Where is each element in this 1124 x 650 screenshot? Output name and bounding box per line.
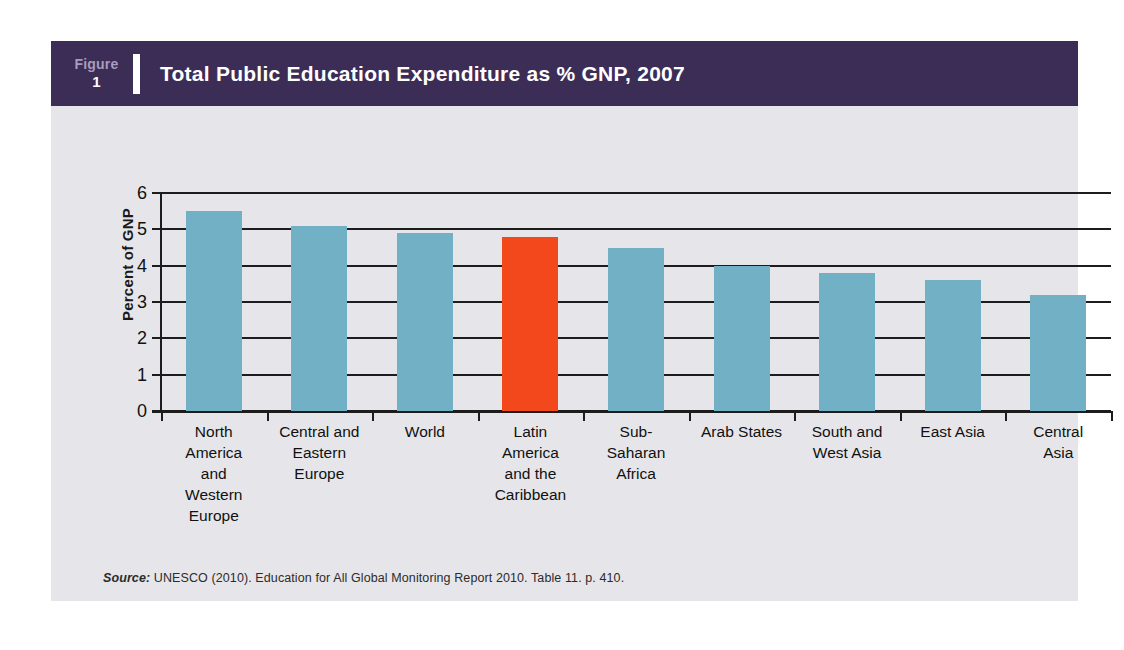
bar xyxy=(397,233,453,411)
x-axis-label-line: and xyxy=(154,463,274,484)
y-tick-mark xyxy=(152,265,161,267)
x-axis-label-line: Latin xyxy=(471,421,591,442)
x-axis-label-line: South and xyxy=(787,421,907,442)
bar xyxy=(502,237,558,411)
bar xyxy=(608,248,664,412)
y-tick-label: 2 xyxy=(137,329,147,347)
x-axis-label: Central andEasternEurope xyxy=(260,421,380,484)
figure-panel: Figure 1 Total Public Education Expendit… xyxy=(51,41,1078,601)
x-axis-label: NorthAmericaandWesternEurope xyxy=(154,421,274,526)
source-note: Source: UNESCO (2010). Education for All… xyxy=(103,571,624,585)
chart-area: Percent of GNP 0123456 NorthAmericaandWe… xyxy=(51,106,1078,601)
x-axis-label: CentralAsia xyxy=(998,421,1118,463)
bar xyxy=(1030,295,1086,411)
title-divider xyxy=(133,54,140,94)
x-axis-label-line: Eastern xyxy=(260,442,380,463)
figure-title: Total Public Education Expenditure as % … xyxy=(160,62,685,86)
x-axis-label: Sub-SaharanAfrica xyxy=(576,421,696,484)
x-axis-label-line: North xyxy=(154,421,274,442)
bar xyxy=(714,266,770,411)
bar xyxy=(925,280,981,411)
figure-number-tag: Figure 1 xyxy=(51,57,129,89)
bar xyxy=(819,273,875,411)
figure-tag-word: Figure xyxy=(75,57,119,72)
x-axis-label-line: Sub- xyxy=(576,421,696,442)
y-tick-mark xyxy=(152,301,161,303)
x-axis-label-line: America xyxy=(471,442,591,463)
y-tick-label: 6 xyxy=(137,184,147,202)
bar xyxy=(291,226,347,411)
source-text: UNESCO (2010). Education for All Global … xyxy=(150,571,624,585)
y-tick-mark xyxy=(152,374,161,376)
y-tick-label: 4 xyxy=(137,257,147,275)
y-tick-label: 3 xyxy=(137,293,147,311)
y-tick-mark xyxy=(152,228,161,230)
x-axis-label: South andWest Asia xyxy=(787,421,907,463)
x-axis-label: East Asia xyxy=(893,421,1013,442)
y-axis-title: Percent of GNP xyxy=(119,195,136,335)
y-tick-label: 1 xyxy=(137,366,147,384)
figure-tag-number: 1 xyxy=(92,74,100,90)
x-axis-label-line: World xyxy=(365,421,485,442)
y-tick-mark xyxy=(152,410,161,412)
bar xyxy=(186,211,242,411)
x-tick-mark xyxy=(161,411,163,421)
x-axis-label-line: West Asia xyxy=(787,442,907,463)
x-tick-mark xyxy=(267,411,269,421)
x-tick-mark xyxy=(900,411,902,421)
y-tick-mark xyxy=(152,337,161,339)
x-tick-mark xyxy=(689,411,691,421)
x-axis-label-line: Saharan xyxy=(576,442,696,463)
x-axis-label-line: Central and xyxy=(260,421,380,442)
x-axis-label-line: Caribbean xyxy=(471,484,591,505)
x-tick-mark xyxy=(372,411,374,421)
x-axis-label-line: Europe xyxy=(260,463,380,484)
x-axis-label: LatinAmericaand theCaribbean xyxy=(471,421,591,505)
x-tick-mark xyxy=(583,411,585,421)
x-axis-label-line: America xyxy=(154,442,274,463)
gridline xyxy=(161,192,1111,194)
x-tick-mark xyxy=(1111,411,1113,421)
x-axis-label-line: Asia xyxy=(998,442,1118,463)
x-axis-label: World xyxy=(365,421,485,442)
x-axis-labels: NorthAmericaandWesternEuropeCentral andE… xyxy=(161,421,1111,551)
x-axis-label-line: Arab States xyxy=(682,421,802,442)
x-axis-label-line: Western xyxy=(154,484,274,505)
x-tick-mark xyxy=(1005,411,1007,421)
x-axis-label-line: Europe xyxy=(154,505,274,526)
x-axis-label-line: Central xyxy=(998,421,1118,442)
x-tick-mark xyxy=(478,411,480,421)
x-axis-label-line: East Asia xyxy=(893,421,1013,442)
figure-title-bar: Figure 1 Total Public Education Expendit… xyxy=(51,41,1078,106)
y-tick-mark xyxy=(152,192,161,194)
x-tick-mark xyxy=(794,411,796,421)
x-axis-label-line: Africa xyxy=(576,463,696,484)
plot-area: 0123456 xyxy=(161,193,1111,411)
y-tick-label: 5 xyxy=(137,220,147,238)
source-label: Source: xyxy=(103,571,150,585)
x-axis-label: Arab States xyxy=(682,421,802,442)
y-tick-label: 0 xyxy=(137,402,147,420)
x-axis-label-line: and the xyxy=(471,463,591,484)
